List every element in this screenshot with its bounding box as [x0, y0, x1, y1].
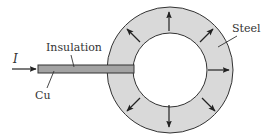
conductor-leader-line	[47, 71, 54, 88]
diagram-canvas: I Insulation Cu Steel	[0, 0, 266, 140]
current-label: I	[12, 52, 18, 66]
insulation-label: Insulation	[46, 41, 102, 54]
steel-label: Steel	[232, 22, 261, 35]
conductor-steel-ring-diagram: I Insulation Cu Steel	[0, 0, 266, 140]
conductor-bar	[38, 65, 134, 73]
inner-bore	[133, 33, 207, 107]
conductor-label: Cu	[35, 89, 51, 102]
